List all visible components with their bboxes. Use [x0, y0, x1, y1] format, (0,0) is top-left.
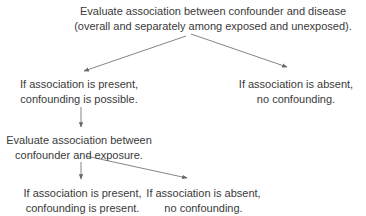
node-absent2-line2: no confounding. — [141, 201, 266, 216]
node-eval2-line1: Evaluate association between — [4, 133, 154, 148]
node-root: Evaluate association between confounder … — [48, 4, 366, 33]
node-no-confounding-1: If association is absent, no confounding… — [226, 77, 366, 106]
node-confounding-possible: If association is present, confounding i… — [4, 77, 154, 106]
node-root-line2: (overall and separately among exposed an… — [48, 19, 366, 34]
node-confounding-present: If association is present, confounding i… — [10, 186, 155, 215]
node-present1-line1: If association is present, — [4, 77, 154, 92]
node-present2-line2: confounding is present. — [10, 201, 155, 216]
node-no-confounding-2: If association is absent, no confounding… — [141, 186, 266, 215]
arrow-root-to-absent — [191, 34, 287, 67]
node-evaluate-exposure: Evaluate association between confounder … — [4, 133, 154, 162]
node-eval2-line2: confounder and exposure. — [4, 148, 154, 163]
node-absent1-line2: no confounding. — [226, 92, 366, 107]
node-root-line1: Evaluate association between confounder … — [48, 4, 366, 19]
node-present1-line2: confounding is possible. — [4, 92, 154, 107]
arrow-root-to-present — [84, 36, 186, 71]
node-absent2-line1: If association is absent, — [141, 186, 266, 201]
node-present2-line1: If association is present, — [10, 186, 155, 201]
node-absent1-line1: If association is absent, — [226, 77, 366, 92]
